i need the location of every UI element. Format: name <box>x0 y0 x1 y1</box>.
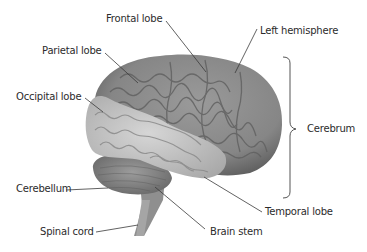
label-left-hemisphere: Left hemisphere <box>260 25 338 37</box>
label-frontal-lobe: Frontal lobe <box>106 13 162 25</box>
label-cerebrum: Cerebrum <box>307 123 355 135</box>
brain-diagram: Frontal lobe Left hemisphere Parietal lo… <box>0 0 367 252</box>
label-occipital-lobe: Occipital lobe <box>16 91 81 103</box>
cerebrum-bracket <box>283 57 296 198</box>
label-temporal-lobe: Temporal lobe <box>265 206 333 218</box>
label-parietal-lobe: Parietal lobe <box>42 45 102 57</box>
label-brain-stem: Brain stem <box>210 226 262 238</box>
label-spinal-cord: Spinal cord <box>40 226 94 238</box>
label-cerebellum: Cerebellum <box>16 183 71 195</box>
